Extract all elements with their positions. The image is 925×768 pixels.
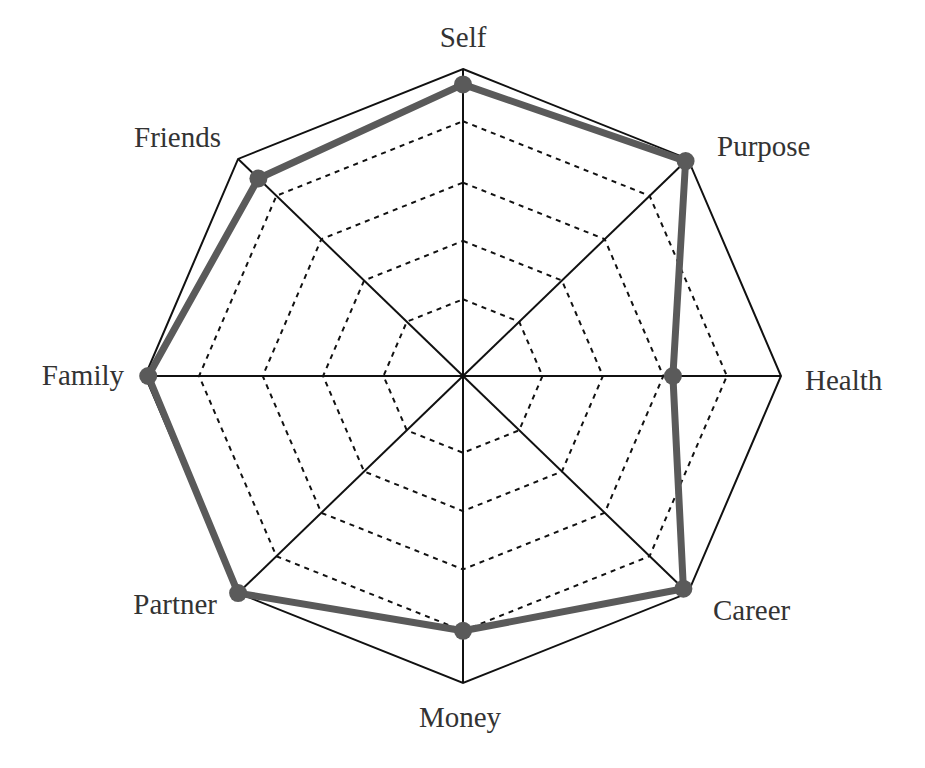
axis-label-partner: Partner: [133, 588, 217, 620]
data-point-friends: [249, 170, 267, 188]
data-point-money: [454, 622, 472, 640]
axis-label-family: Family: [42, 359, 125, 391]
axis-label-health: Health: [805, 364, 883, 396]
axis-label-money: Money: [419, 701, 502, 733]
spoke-career: [463, 376, 688, 593]
radar-chart: Self Purpose Health Career Money Partner…: [0, 0, 925, 768]
axis-label-career: Career: [713, 594, 791, 626]
data-point-self: [454, 75, 472, 93]
series-line: [148, 84, 685, 630]
data-point-purpose: [677, 152, 695, 170]
data-point-career: [674, 580, 692, 598]
spoke-partner: [238, 376, 463, 593]
axis-label-self: Self: [440, 21, 487, 53]
radar-series: [139, 75, 694, 639]
axis-label-purpose: Purpose: [717, 130, 810, 162]
data-point-partner: [229, 584, 247, 602]
data-point-health: [664, 367, 682, 385]
data-point-family: [139, 367, 157, 385]
spoke-friends: [238, 159, 463, 376]
spoke-purpose: [463, 159, 688, 376]
axis-label-friends: Friends: [134, 121, 221, 153]
